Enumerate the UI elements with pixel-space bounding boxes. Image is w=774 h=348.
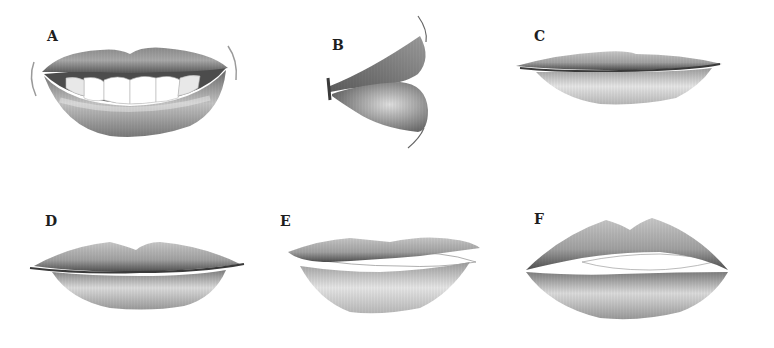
panel-label-b: B <box>332 37 344 53</box>
panel-label-d: D <box>45 213 57 229</box>
lips-f-drawing <box>526 218 728 319</box>
lips-a-drawing <box>31 46 236 137</box>
panel-label-a: A <box>47 28 58 44</box>
lips-c-drawing <box>516 51 722 104</box>
lips-d-drawing <box>30 242 244 310</box>
lips-b-drawing <box>328 16 428 148</box>
lips-e-drawing <box>288 238 480 314</box>
panel-label-c: C <box>534 28 545 44</box>
panel-label-e: E <box>280 213 291 229</box>
lips-illustration <box>0 0 774 348</box>
panel-label-f: F <box>534 211 544 227</box>
